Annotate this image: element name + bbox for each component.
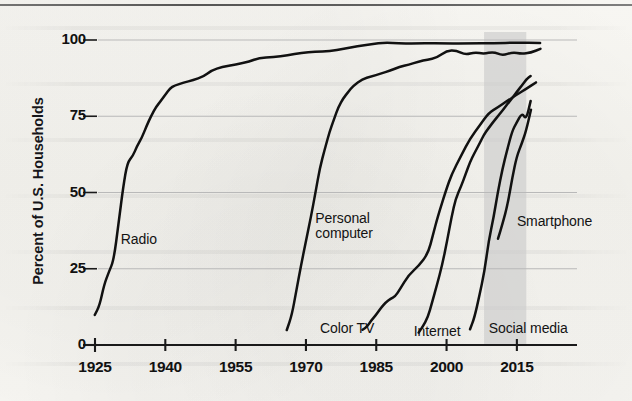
series-label-internet: Internet xyxy=(414,324,461,340)
y-tick-label-0: 0 xyxy=(40,335,86,352)
series-label-social-media: Social media xyxy=(489,321,568,337)
x-tick-label-1955: 1955 xyxy=(204,358,268,376)
chart-plot-area xyxy=(0,0,632,401)
x-tick-label-2000: 2000 xyxy=(415,358,479,376)
x-tick-label-1940: 1940 xyxy=(133,358,197,376)
series-label-radio: Radio xyxy=(121,232,157,248)
y-tick-label-75: 75 xyxy=(40,106,86,123)
highlight-band xyxy=(484,32,526,345)
series-label-smartphone: Smartphone xyxy=(517,214,592,230)
y-tick-label-100: 100 xyxy=(40,30,86,47)
x-tick-label-2015: 2015 xyxy=(485,358,549,376)
x-tick-label-1970: 1970 xyxy=(274,358,338,376)
y-tick-label-50: 50 xyxy=(40,183,86,200)
chart-figure: Percent of U.S. Households 0255075100 19… xyxy=(0,0,632,401)
series-label-personal-computer: Personal computer xyxy=(315,211,373,242)
y-tick-label-25: 25 xyxy=(40,259,86,276)
x-tick-label-1925: 1925 xyxy=(63,358,127,376)
series-label-color-tv: Color TV xyxy=(320,321,374,337)
x-tick-label-1985: 1985 xyxy=(344,358,408,376)
